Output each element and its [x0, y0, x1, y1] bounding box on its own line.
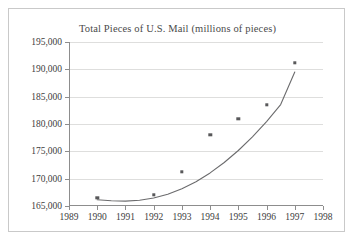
- x-axis-tick-label: 1990: [88, 212, 107, 222]
- x-axis-tick: [210, 206, 211, 210]
- x-axis-tick: [125, 206, 126, 210]
- y-axis-tick-label: 175,000: [31, 146, 62, 156]
- x-axis-tick-label: 1996: [257, 212, 276, 222]
- x-axis-tick-label: 1989: [60, 212, 79, 222]
- x-axis-tick: [295, 206, 296, 210]
- data-point: [293, 61, 296, 64]
- data-point: [152, 193, 155, 196]
- x-axis-tick: [69, 206, 70, 210]
- x-axis-tick-label: 1998: [314, 212, 333, 222]
- x-axis-tick: [238, 206, 239, 210]
- y-axis-tick-label: 195,000: [31, 37, 62, 47]
- x-axis-tick: [323, 206, 324, 210]
- data-point: [208, 133, 211, 136]
- y-axis-tick-label: 170,000: [31, 174, 62, 184]
- x-axis-tick: [267, 206, 268, 210]
- chart-title: Total Pieces of U.S. Mail (millions of p…: [9, 23, 346, 34]
- x-axis-tick-label: 1997: [285, 212, 304, 222]
- y-axis-tick-label: 165,000: [31, 201, 62, 211]
- data-point: [265, 103, 268, 106]
- x-axis-tick-label: 1994: [201, 212, 220, 222]
- chart-figure: Total Pieces of U.S. Mail (millions of p…: [8, 8, 345, 232]
- data-point: [96, 196, 99, 199]
- x-axis-tick-label: 1993: [172, 212, 191, 222]
- x-axis-tick: [182, 206, 183, 210]
- x-axis-tick: [97, 206, 98, 210]
- x-axis-tick-label: 1991: [116, 212, 135, 222]
- x-axis-tick: [154, 206, 155, 210]
- plot-area: 165,000170,000175,000180,000185,000190,0…: [69, 42, 323, 206]
- y-axis-tick-label: 180,000: [31, 119, 62, 129]
- y-axis-tick-label: 190,000: [31, 64, 62, 74]
- x-axis-tick-label: 1992: [144, 212, 163, 222]
- x-axis-tick-label: 1995: [229, 212, 248, 222]
- y-axis-tick-label: 185,000: [31, 92, 62, 102]
- fitted-trend-curve: [69, 42, 323, 206]
- data-point: [237, 117, 240, 120]
- data-point: [180, 170, 183, 173]
